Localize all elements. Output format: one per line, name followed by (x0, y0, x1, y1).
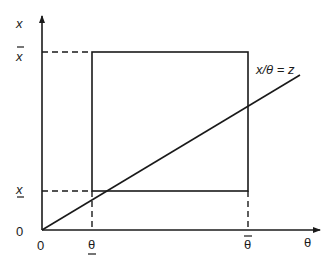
y-axis-label: x (15, 16, 23, 31)
lower-x-label: x (15, 182, 24, 197)
svg-text:x: x (15, 182, 23, 197)
svg-text:x: x (15, 49, 23, 64)
y-origin-label: 0 (16, 224, 23, 239)
upper-x-label: x (15, 47, 24, 64)
svg-text:θ: θ (88, 237, 95, 252)
upper-theta-label: θ (244, 236, 252, 252)
x-axis-label: θ (304, 235, 311, 250)
lower-theta-label: θ (88, 237, 96, 254)
x-origin-label: 0 (37, 238, 44, 253)
feasible-rectangle (92, 52, 248, 191)
ray-label: x/θ = z (255, 62, 295, 77)
diagram-canvas: x x x 0 0 θ θ θ x/θ = z (0, 0, 336, 268)
svg-text:θ: θ (244, 237, 251, 252)
ray-line (42, 75, 300, 230)
